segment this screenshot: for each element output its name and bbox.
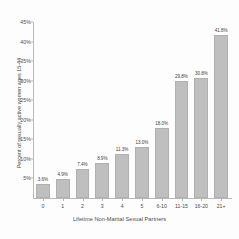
bar-value-label: 11.3% xyxy=(112,147,132,152)
x-axis-tick-label: 1 xyxy=(61,203,64,209)
x-axis-tick-mark xyxy=(142,198,143,201)
x-axis-tick-label: 2 xyxy=(81,203,84,209)
bar-value-label: 30.8% xyxy=(191,71,211,76)
bar-value-label: 8.9% xyxy=(92,156,112,161)
bar xyxy=(214,35,228,198)
x-axis-tick-mark xyxy=(102,198,103,201)
x-axis-title: Lifetime Non-Marital Sexual Partners xyxy=(0,216,239,222)
bar-value-label: 3.6% xyxy=(33,177,53,182)
x-axis-tick-label: 16-20 xyxy=(195,203,208,209)
y-axis-title: Percent of sexually active women ages 15… xyxy=(16,38,22,188)
x-axis-tick-mark xyxy=(122,198,123,201)
chart-figure: 5%10%15%20%25%30%35%40%45% Percent of se… xyxy=(0,0,239,239)
bar xyxy=(194,78,208,198)
x-axis-tick-mark xyxy=(201,198,202,201)
x-axis-tick-label: 0 xyxy=(41,203,44,209)
bar xyxy=(115,154,129,198)
x-axis-tick-label: 6-10 xyxy=(156,203,166,209)
bar xyxy=(135,147,149,198)
x-axis-tick-label: 3 xyxy=(101,203,104,209)
x-axis-tick-mark xyxy=(83,198,84,201)
bar xyxy=(175,81,189,198)
bar-value-label: 41.8% xyxy=(211,28,231,33)
bar-value-label: 29.8% xyxy=(172,74,192,79)
bar-value-label: 4.9% xyxy=(53,172,73,177)
x-axis-tick-mark xyxy=(221,198,222,201)
bar xyxy=(76,169,90,198)
plot-area: 3.6%4.9%7.4%8.9%11.3%13.0%18.0%29.8%30.8… xyxy=(33,22,231,198)
x-axis-tick-mark xyxy=(63,198,64,201)
bar xyxy=(95,163,109,198)
bar-value-label: 18.0% xyxy=(152,121,172,126)
x-axis-tick-label: 11-15 xyxy=(175,203,188,209)
bar xyxy=(36,184,50,198)
bar-value-label: 13.0% xyxy=(132,140,152,145)
x-axis-tick-label: 21+ xyxy=(217,203,226,209)
bar-value-label: 7.4% xyxy=(73,162,93,167)
x-axis-tick-mark xyxy=(182,198,183,201)
x-axis-tick-mark xyxy=(43,198,44,201)
bar xyxy=(155,128,169,198)
x-axis-tick-label: 4 xyxy=(121,203,124,209)
y-axis-tick-label: 45% xyxy=(0,19,31,25)
x-axis-tick-mark xyxy=(162,198,163,201)
bar xyxy=(56,179,70,198)
x-axis-tick-label: 5 xyxy=(140,203,143,209)
